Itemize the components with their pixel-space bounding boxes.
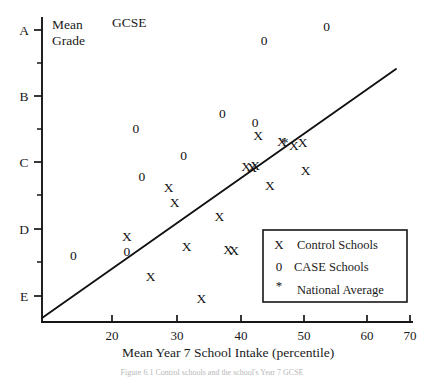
data-point-control-3: X — [170, 195, 180, 210]
x-tick-label-70: 70 — [404, 328, 417, 343]
legend-label-national-average: National Average — [297, 283, 384, 297]
data-point-national-average-0: * — [281, 135, 289, 151]
data-point-case-4: 0 — [180, 148, 187, 163]
data-point-control-1: X — [146, 269, 156, 284]
legend-label-control: Control Schools — [297, 238, 378, 252]
x-axis-ticks: 20 30 40 50 60 70 — [106, 315, 417, 343]
data-point-case-2: 0 — [132, 121, 139, 136]
x-tick-label-60: 60 — [361, 328, 374, 343]
y-axis-title-line1: Mean — [52, 17, 83, 32]
data-point-control-12: X — [253, 128, 263, 143]
scatter-plot-figure: A B C D E 20 30 40 50 60 70 Mean Year 7 … — [0, 0, 425, 379]
data-point-control-16: X — [298, 135, 308, 150]
data-point-case-3: 0 — [138, 169, 145, 184]
data-point-case-0: 0 — [70, 248, 77, 263]
legend-symbol-case: 0 — [276, 259, 283, 274]
y-tick-label-a: A — [19, 23, 29, 38]
chart-svg: A B C D E 20 30 40 50 60 70 Mean Year 7 … — [0, 0, 425, 379]
data-point-case-5: 0 — [219, 106, 226, 121]
data-point-control-4: X — [182, 239, 192, 254]
data-point-control-11: X — [250, 158, 260, 173]
legend-symbol-control: X — [274, 237, 284, 252]
figure-caption: Figure 6.1 Control schools and the schoo… — [121, 368, 304, 377]
y-tick-label-e: E — [20, 289, 28, 304]
y-axis-title-line2: Grade — [52, 33, 85, 48]
x-tick-label-30: 30 — [171, 328, 184, 343]
data-point-control-2: X — [164, 180, 174, 195]
x-axis-title: Mean Year 7 School Intake (percentile) — [122, 345, 334, 360]
data-point-case-8: 0 — [323, 19, 330, 34]
data-point-control-17: X — [301, 163, 311, 178]
y-tick-label-b: B — [19, 89, 28, 104]
data-point-control-8: X — [229, 243, 239, 258]
y-tick-label-c: C — [19, 155, 28, 170]
data-point-case-6: 0 — [252, 115, 259, 130]
data-point-case-7: 0 — [261, 33, 268, 48]
legend-label-case: CASE Schools — [294, 260, 369, 274]
x-tick-label-40: 40 — [235, 328, 248, 343]
data-point-control-13: X — [265, 178, 275, 193]
x-tick-label-50: 50 — [298, 328, 311, 343]
data-point-control-6: X — [214, 209, 224, 224]
legend-symbol-national-average: * — [276, 278, 283, 293]
data-point-control-5: X — [197, 291, 207, 306]
chart-legend: X Control Schools 0 CASE Schools * Natio… — [263, 230, 407, 302]
data-markers-layer: XXXXXXXXXXXXXXXXXX000000000* — [70, 19, 330, 306]
x-tick-label-20: 20 — [106, 328, 119, 343]
data-point-control-0: X — [122, 229, 132, 244]
data-point-case-1: 0 — [124, 244, 131, 259]
axes — [42, 18, 412, 322]
y-axis-ticks: A B C D E — [19, 23, 42, 304]
plot-annotation-gcse: GCSE — [112, 15, 147, 30]
y-tick-label-d: D — [19, 222, 29, 237]
